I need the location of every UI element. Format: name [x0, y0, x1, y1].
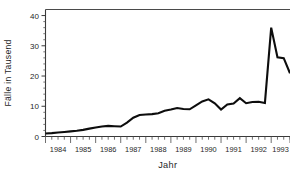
- y-axis-title: Fälle in Tausend: [3, 39, 13, 106]
- y-tick-label: 20: [30, 72, 39, 81]
- chart-background: [0, 0, 290, 172]
- x-tick-label: 1989: [175, 145, 191, 154]
- chart-container: g g g 010203040 198419851986198719881989…: [0, 0, 290, 172]
- x-tick-label: 1993: [272, 145, 288, 154]
- x-tick-label: 1991: [225, 145, 241, 154]
- line-chart: 010203040 198419851986198719881989199019…: [0, 0, 290, 172]
- y-tick-label: 0: [35, 133, 40, 142]
- x-tick-label: 1986: [100, 145, 116, 154]
- y-tick-label: 30: [30, 42, 39, 51]
- x-tick-label: 1988: [150, 145, 166, 154]
- x-axis-title: Jahr: [158, 160, 177, 170]
- x-tick-label: 1985: [75, 145, 91, 154]
- x-tick-label: 1984: [50, 145, 66, 154]
- x-tick-label: 1987: [125, 145, 141, 154]
- y-tick-label: 40: [30, 12, 39, 21]
- x-tick-label: 1990: [200, 145, 216, 154]
- y-tick-label: 10: [30, 102, 39, 111]
- x-tick-label: 1992: [250, 145, 266, 154]
